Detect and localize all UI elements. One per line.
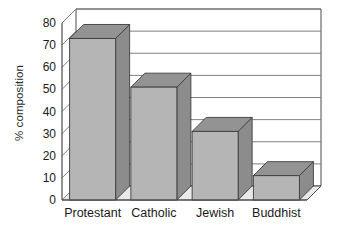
bar (70, 24, 130, 200)
y-tick-label: 50 (30, 83, 56, 95)
y-tick-label: 30 (30, 128, 56, 140)
bar-side-face (177, 73, 191, 200)
bar-front-face (70, 38, 116, 200)
bar-chart: % composition 01020304050607080 Protesta… (0, 0, 340, 238)
y-tick-label: 80 (30, 17, 56, 29)
y-tick-label: 40 (30, 106, 56, 118)
y-tick-label: 60 (30, 61, 56, 73)
bar-front-face (253, 176, 299, 200)
y-tick-label: 0 (30, 194, 56, 206)
bar (253, 162, 313, 200)
bar-front-face (131, 87, 177, 200)
bar-side-face (116, 24, 130, 200)
bar (192, 117, 252, 200)
y-tick-label: 20 (30, 150, 56, 162)
bar (131, 73, 191, 200)
y-axis-tick (62, 9, 76, 23)
bar-front-face (192, 131, 238, 200)
y-tick-label: 70 (30, 39, 56, 51)
x-tick-label: Buddhist (216, 207, 336, 220)
y-tick-label: 10 (30, 172, 56, 184)
